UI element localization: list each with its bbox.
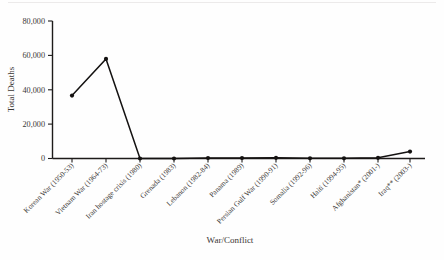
data-point-marker: [172, 156, 176, 160]
data-point-marker: [408, 150, 412, 154]
y-tick-label: 40,000: [22, 86, 45, 95]
deaths-series-markers: [70, 57, 412, 161]
data-point-marker: [70, 94, 74, 98]
x-axis-title: War/Conflict: [207, 235, 254, 245]
x-tick-label: Iraq** (2003-): [376, 161, 413, 198]
data-point-marker: [308, 156, 312, 160]
x-tick-label: Iran hostage crisis (1980): [84, 161, 144, 221]
y-axis-title: Total Deaths: [6, 66, 16, 112]
data-point-marker: [138, 156, 142, 160]
y-tick-label: 0: [41, 154, 45, 163]
y-tick-label: 60,000: [22, 51, 45, 60]
y-tick-label: 80,000: [22, 17, 45, 26]
data-point-marker: [104, 57, 108, 61]
x-tick-label: Persian Gulf War (1990-91): [215, 161, 280, 226]
deaths-series-line: [72, 59, 410, 159]
line-chart-canvas: 0 20,000 40,000 60,000 80,000: [0, 0, 444, 260]
chart-figure: 0 20,000 40,000 60,000 80,000: [0, 0, 444, 260]
x-axis-category-labels: Korean War (1950-53) Vietnam War (1964-7…: [22, 161, 414, 226]
data-point-marker: [206, 156, 210, 160]
y-tick-label: 20,000: [22, 120, 45, 129]
data-point-marker: [274, 156, 278, 160]
data-point-marker: [342, 156, 346, 160]
data-point-marker: [240, 156, 244, 160]
data-point-marker: [376, 156, 380, 160]
